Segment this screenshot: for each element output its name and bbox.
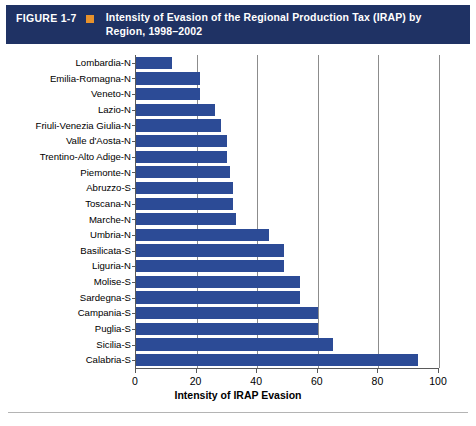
bar [136,307,318,319]
bar [136,151,227,163]
chart-area: Lombardia-NEmilia-Romagna-NVeneto-NLazio… [0,48,476,393]
bar-row: Basilicata-S [136,243,439,259]
bar-row: Calabria-S [136,352,439,368]
bar-row: Emilia-Romagna-N [136,71,439,87]
x-tick-label: 40 [250,375,262,387]
orange-square-icon [86,15,94,23]
bar [136,166,230,178]
bar [136,57,172,69]
figure-number: FIGURE 1-7 [16,11,77,25]
bar-row: Sicilia-S [136,337,439,353]
category-label: Toscana-N [85,196,131,212]
bar [136,291,300,303]
bar-row: Campania-S [136,305,439,321]
bar-row: Marche-N [136,212,439,228]
category-label: Trentino-Alto Adige-N [40,149,131,165]
x-tick-label: 80 [372,375,384,387]
x-tick [135,368,136,373]
bar [136,338,333,350]
gridline [439,55,440,368]
bar-row: Umbria-N [136,227,439,243]
category-label: Valle d'Aosta-N [66,133,131,149]
bar [136,119,221,131]
x-tick-label: 60 [311,375,323,387]
x-tick [256,368,257,373]
bar [136,198,233,210]
category-label: Abruzzo-S [86,180,131,196]
bottom-divider [8,412,468,413]
category-label: Emilia-Romagna-N [50,71,131,87]
bar [136,229,269,241]
bar-row: Puglia-S [136,321,439,337]
bar [136,260,284,272]
bar-row: Friuli-Venezia Giulia-N [136,118,439,134]
category-label: Marche-N [89,212,131,228]
category-label: Lombardia-N [76,55,131,71]
category-label: Basilicata-S [80,243,131,259]
category-label: Liguria-N [92,258,131,274]
bar [136,244,284,256]
bar [136,323,318,335]
bar [136,72,200,84]
bar [136,213,236,225]
bar-row: Lombardia-N [136,55,439,71]
bar-row: Liguria-N [136,258,439,274]
bar-row: Piemonte-N [136,165,439,181]
bar-row: Trentino-Alto Adige-N [136,149,439,165]
category-label: Lazio-N [98,102,131,118]
figure-container: FIGURE 1-7 Intensity of Evasion of the R… [0,0,476,426]
figure-title: Intensity of Evasion of the Regional Pro… [106,11,462,38]
bar-row: Toscana-N [136,196,439,212]
bar-row: Lazio-N [136,102,439,118]
x-tick [196,368,197,373]
bar-row: Sardegna-S [136,290,439,306]
bar-row: Molise-S [136,274,439,290]
bar [136,354,418,366]
bar-row: Veneto-N [136,86,439,102]
category-label: Sicilia-S [96,337,131,353]
x-tick [377,368,378,373]
bar-row: Valle d'Aosta-N [136,133,439,149]
x-tick-label: 20 [190,375,202,387]
category-label: Veneto-N [91,86,131,102]
bar [136,276,300,288]
bar-row: Abruzzo-S [136,180,439,196]
x-tick [438,368,439,373]
category-label: Sardegna-S [80,290,131,306]
category-label: Campania-S [78,305,131,321]
category-label: Friuli-Venezia Giulia-N [36,118,131,134]
x-tick-label: 100 [429,375,447,387]
plot-region: Lombardia-NEmilia-Romagna-NVeneto-NLazio… [135,55,439,368]
figure-header: FIGURE 1-7 Intensity of Evasion of the R… [6,5,470,44]
x-axis-line [135,368,439,369]
bar [136,182,233,194]
x-tick-label: 0 [132,375,138,387]
category-label: Molise-S [94,274,131,290]
x-tick [317,368,318,373]
bar [136,135,227,147]
category-label: Piemonte-N [80,165,131,181]
category-label: Umbria-N [90,227,131,243]
bar [136,104,215,116]
bar [136,88,200,100]
x-axis-title: Intensity of IRAP Evasion [0,389,476,401]
category-label: Calabria-S [86,352,131,368]
category-label: Puglia-S [95,321,131,337]
